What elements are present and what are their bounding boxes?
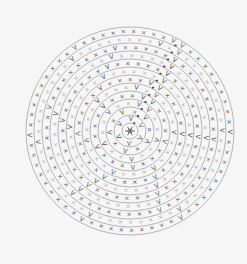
single-crochet-symbol: × — [59, 138, 67, 144]
single-crochet-symbol: × — [128, 219, 133, 226]
single-crochet-symbol: × — [133, 187, 139, 194]
single-crochet-symbol: × — [124, 195, 129, 202]
single-crochet-symbol: × — [29, 101, 37, 108]
single-crochet-symbol: × — [207, 105, 215, 112]
single-crochet-symbol: × — [127, 35, 132, 42]
single-crochet-symbol: × — [131, 171, 137, 178]
single-crochet-symbol: × — [149, 225, 155, 233]
single-crochet-symbol: × — [123, 43, 128, 50]
single-crochet-symbol: × — [116, 211, 122, 219]
single-crochet-symbol: × — [36, 108, 44, 114]
single-crochet-symbol: × — [131, 108, 138, 116]
single-crochet-symbol: × — [27, 142, 35, 148]
increase-symbol: V — [194, 134, 202, 140]
single-crochet-symbol: × — [75, 120, 83, 126]
slip-stitch-icon — [137, 115, 140, 117]
single-crochet-symbol: × — [61, 148, 69, 155]
single-crochet-symbol: × — [145, 61, 152, 69]
single-crochet-symbol: × — [120, 171, 126, 179]
increase-symbol: V — [66, 124, 74, 130]
single-crochet-symbol: × — [54, 151, 62, 158]
single-crochet-symbol: × — [218, 117, 226, 123]
single-crochet-symbol: × — [201, 114, 209, 120]
single-crochet-symbol: × — [46, 155, 54, 162]
single-crochet-symbol: × — [50, 132, 57, 137]
slip-stitch-icon — [144, 101, 147, 103]
single-crochet-symbol: × — [68, 113, 76, 120]
single-crochet-symbol: × — [168, 139, 176, 146]
single-crochet-symbol: × — [136, 203, 142, 211]
magic-ring-center — [125, 127, 135, 136]
single-crochet-symbol: × — [175, 109, 183, 116]
single-crochet-symbol: × — [125, 59, 130, 66]
single-crochet-symbol: × — [135, 195, 141, 203]
decrease-symbol: Λ — [156, 205, 164, 214]
single-crochet-symbol: × — [114, 60, 120, 68]
single-crochet-symbol: × — [147, 37, 153, 45]
single-crochet-symbol: × — [116, 76, 122, 84]
single-crochet-symbol: × — [44, 145, 52, 151]
single-crochet-symbol: × — [141, 69, 148, 77]
single-crochet-symbol: × — [103, 191, 110, 199]
single-crochet-symbol: × — [128, 75, 133, 82]
single-crochet-symbol: × — [127, 211, 132, 218]
single-crochet-symbol: × — [123, 83, 129, 90]
single-crochet-symbol: × — [107, 217, 113, 225]
single-crochet-symbol: × — [99, 118, 107, 125]
single-crochet-symbol: × — [98, 130, 105, 135]
single-crochet-symbol: × — [141, 168, 148, 176]
slip-stitch-icon — [148, 94, 151, 96]
single-crochet-symbol: × — [158, 222, 165, 230]
single-crochet-symbol: × — [34, 129, 41, 134]
single-crochet-symbol: × — [178, 120, 186, 126]
single-crochet-symbol: × — [61, 107, 69, 114]
single-crochet-symbol: × — [139, 52, 145, 60]
single-crochet-symbol: × — [98, 223, 105, 231]
single-crochet-symbol: × — [208, 146, 216, 152]
single-crochet-symbol: × — [218, 138, 225, 144]
single-crochet-symbol: × — [224, 149, 232, 155]
single-crochet-symbol: × — [121, 68, 127, 75]
single-crochet-symbol: × — [131, 28, 136, 35]
slip-stitch-icon — [133, 122, 136, 124]
single-crochet-symbol: × — [153, 47, 160, 55]
increase-symbol: V — [141, 114, 150, 123]
increase-symbol: V — [134, 83, 140, 92]
single-crochet-symbol: × — [117, 219, 123, 226]
decrease-symbol: Λ — [126, 139, 132, 147]
single-crochet-symbol: × — [116, 36, 122, 44]
single-crochet-symbol: × — [176, 141, 184, 148]
single-crochet-symbol: × — [151, 30, 158, 38]
single-crochet-symbol: × — [76, 141, 84, 148]
increase-symbol: V — [112, 44, 118, 53]
single-crochet-symbol: × — [213, 97, 221, 104]
single-crochet-symbol: × — [129, 51, 134, 58]
single-crochet-symbol: × — [36, 149, 44, 155]
single-crochet-symbol: × — [169, 119, 177, 125]
single-crochet-symbol: × — [27, 112, 35, 118]
increase-symbol: V — [201, 135, 209, 141]
single-crochet-symbol: × — [84, 116, 92, 123]
decrease-symbol: Λ — [34, 139, 43, 145]
single-crochet-symbol: × — [106, 37, 112, 45]
single-crochet-symbol: × — [209, 116, 217, 122]
crochet-chart: VΛΛΛVVV×Λ×Λ×Λ×V×V××Λ××Λ××Λ××V××VV×××V×××… — [0, 0, 247, 264]
increase-symbol: V — [209, 137, 217, 143]
decrease-symbol: Λ — [26, 132, 34, 137]
single-crochet-symbol: × — [110, 29, 116, 37]
single-crochet-symbol: × — [121, 28, 126, 35]
single-crochet-symbol: × — [132, 179, 138, 186]
increase-symbol: V — [157, 39, 164, 48]
single-crochet-symbol: × — [100, 31, 107, 39]
single-crochet-symbol: × — [112, 185, 119, 193]
single-crochet-symbol: × — [192, 144, 200, 151]
single-crochet-symbol: × — [114, 194, 120, 202]
decrease-symbol: Λ — [83, 137, 92, 144]
single-crochet-symbol: × — [91, 133, 99, 139]
single-crochet-symbol: × — [147, 209, 154, 217]
single-crochet-symbol: × — [118, 227, 124, 234]
single-crochet-symbol: × — [154, 127, 161, 132]
slip-stitch-icon — [171, 52, 174, 54]
single-crochet-symbol: × — [119, 52, 125, 60]
single-crochet-symbol: × — [143, 185, 150, 193]
